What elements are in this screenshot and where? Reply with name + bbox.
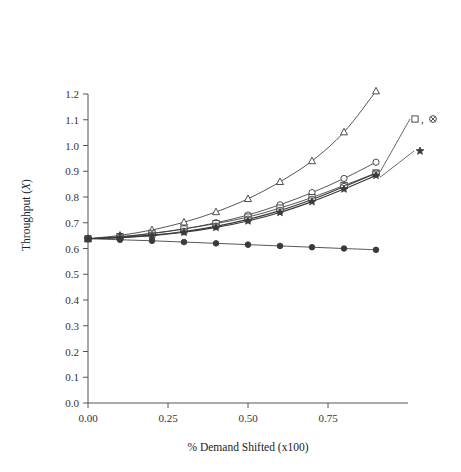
circle-filled-marker — [277, 243, 283, 249]
circle-filled-marker — [149, 238, 155, 244]
x-tick-label: 0.75 — [318, 412, 338, 424]
y-tick-label: 0.6 — [65, 243, 79, 255]
y-tick-label: 0.3 — [65, 320, 79, 332]
y-axis-title-close: ) — [20, 179, 33, 183]
circle-filled-marker — [245, 242, 251, 248]
x-tick-label: 0.00 — [78, 412, 98, 424]
y-axis-title: Throughput (X) — [20, 179, 33, 251]
circle-filled-marker — [341, 246, 347, 252]
x-tick-label: 0.50 — [238, 412, 258, 424]
circle-filled-marker — [213, 241, 219, 247]
y-tick-label: 0.7 — [65, 217, 79, 229]
y-tick-label: 0.2 — [65, 346, 79, 358]
circle-filled-marker — [85, 236, 91, 242]
y-tick-label: 0.8 — [65, 191, 79, 203]
y-tick-label: 0.9 — [65, 165, 79, 177]
legend-separator: , — [421, 113, 424, 125]
y-tick-label: 0.1 — [65, 371, 79, 383]
circle-open-marker — [373, 159, 379, 165]
circle-filled-marker — [373, 247, 379, 253]
y-axis-title-text: Throughput ( — [20, 190, 33, 251]
y-tick-label: 1.0 — [65, 140, 79, 152]
y-tick-label: 0.0 — [65, 397, 79, 409]
circle-filled-marker — [181, 239, 187, 245]
x-axis-title: % Demand Shifted (x100) — [187, 441, 308, 454]
chart-figure: 0.00.10.20.30.40.50.60.70.80.91.01.11.2 … — [0, 0, 461, 472]
legend-square-icon — [412, 116, 418, 122]
y-tick-label: 0.4 — [65, 294, 79, 306]
x-tick-label: 0.25 — [158, 412, 178, 424]
circle-filled-marker — [309, 244, 315, 250]
y-tick-label: 1.2 — [65, 88, 79, 100]
circle-open-marker — [341, 175, 347, 181]
circle-filled-marker — [117, 237, 123, 243]
throughput-line-chart: 0.00.10.20.30.40.50.60.70.80.91.01.11.2 … — [0, 0, 461, 472]
y-tick-label: 0.5 — [65, 268, 79, 280]
y-tick-label: 1.1 — [65, 114, 79, 126]
